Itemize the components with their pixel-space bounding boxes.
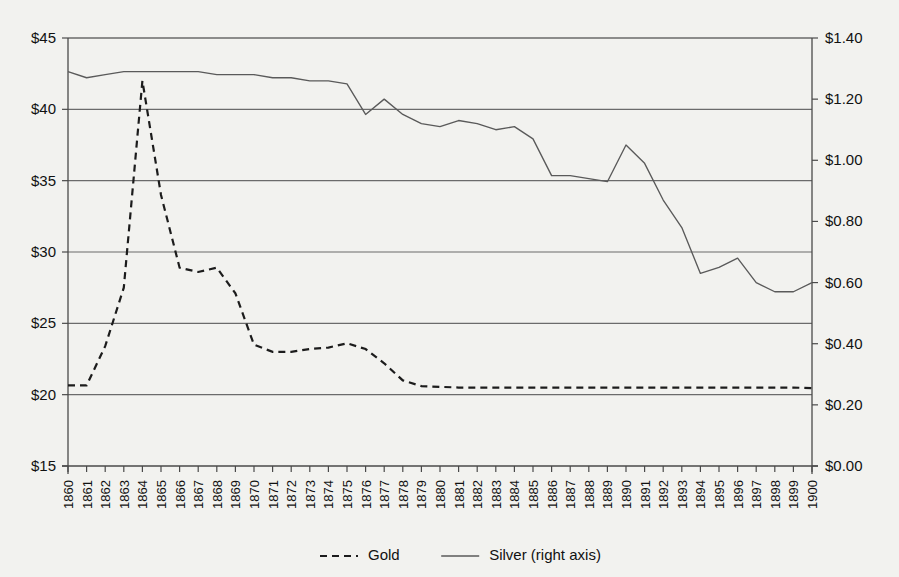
x-axis-tick-label: 1890 <box>619 480 634 509</box>
x-axis-tick-label: 1873 <box>303 480 318 509</box>
x-axis-tick-label: 1874 <box>321 480 336 509</box>
chart-canvas: $15$20$25$30$35$40$45 $0.00$0.20$0.40$0.… <box>0 0 899 577</box>
x-axis-tick-label: 1883 <box>489 480 504 509</box>
price-chart: $15$20$25$30$35$40$45 $0.00$0.20$0.40$0.… <box>0 0 899 577</box>
x-axis-tick-label: 1881 <box>452 480 467 509</box>
x-axis-tick-label: 1893 <box>675 480 690 509</box>
x-axis-tick-label: 1888 <box>582 480 597 509</box>
x-axis-tick-label: 1876 <box>359 480 374 509</box>
right-axis-tick-label: $1.20 <box>825 90 863 107</box>
right-axis-tick-label: $0.80 <box>825 212 863 229</box>
x-axis-tick-label: 1870 <box>247 480 262 509</box>
x-axis-tick-label: 1865 <box>154 480 169 509</box>
x-axis-tick-label: 1866 <box>173 480 188 509</box>
x-axis-tick-label: 1899 <box>786 480 801 509</box>
x-axis-tick-label: 1877 <box>377 480 392 509</box>
x-axis-tick-label: 1880 <box>433 480 448 509</box>
x-axis-tick-label: 1864 <box>135 480 150 509</box>
left-axis-tick-label: $40 <box>31 100 56 117</box>
right-axis-tick-label: $1.00 <box>825 151 863 168</box>
right-axis-tick-label: $0.20 <box>825 396 863 413</box>
x-axis-tick-label: 1860 <box>61 480 76 509</box>
x-axis-tick-label: 1869 <box>228 480 243 509</box>
left-axis-tick-label: $30 <box>31 243 56 260</box>
x-axis-tick-label: 1889 <box>600 480 615 509</box>
x-axis-tick-label: 1872 <box>284 480 299 509</box>
x-axis-tick-label: 1897 <box>749 480 764 509</box>
x-axis-tick-label: 1875 <box>340 480 355 509</box>
left-axis-tick-label: $35 <box>31 172 56 189</box>
x-axis-tick-label: 1863 <box>117 480 132 509</box>
x-axis-tick-label: 1879 <box>414 480 429 509</box>
right-axis-tick-label: $0.60 <box>825 274 863 291</box>
x-axis-tick-label: 1886 <box>545 480 560 509</box>
legend-label-gold: Gold <box>368 546 400 563</box>
left-axis-tick-label: $45 <box>31 29 56 46</box>
left-axis-tick-label: $15 <box>31 457 56 474</box>
x-axis-tick-label: 1868 <box>210 480 225 509</box>
x-axis-tick-label: 1867 <box>191 480 206 509</box>
x-axis-tick-label: 1878 <box>396 480 411 509</box>
left-axis-tick-label: $20 <box>31 386 56 403</box>
left-axis-tick-label: $25 <box>31 314 56 331</box>
x-axis-tick-label: 1894 <box>693 480 708 509</box>
x-axis-tick-label: 1895 <box>712 480 727 509</box>
right-axis-tick-label: $1.40 <box>825 29 863 46</box>
x-axis-tick-label: 1900 <box>805 480 820 509</box>
right-axis-tick-label: $0.40 <box>825 335 863 352</box>
x-axis-tick-label: 1862 <box>98 480 113 509</box>
legend-label-silver: Silver (right axis) <box>489 546 601 563</box>
x-axis-tick-label: 1891 <box>638 480 653 509</box>
x-axis-tick-label: 1885 <box>526 480 541 509</box>
x-axis-tick-label: 1861 <box>80 480 95 509</box>
right-axis-tick-label: $0.00 <box>825 457 863 474</box>
x-axis-tick-label: 1884 <box>507 480 522 509</box>
x-axis-tick-label: 1882 <box>470 480 485 509</box>
x-axis-tick-label: 1896 <box>731 480 746 509</box>
x-axis-tick-label: 1898 <box>768 480 783 509</box>
x-axis-tick-label: 1871 <box>266 480 281 509</box>
x-axis-tick-label: 1892 <box>656 480 671 509</box>
x-axis-tick-label: 1887 <box>563 480 578 509</box>
